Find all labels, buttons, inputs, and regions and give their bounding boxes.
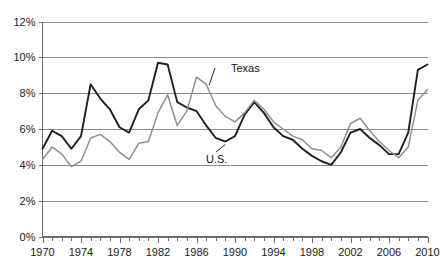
x-axis <box>43 237 429 243</box>
x-axis-label-1998: 1998 <box>300 246 324 258</box>
x-axis-label-2010: 2010 <box>415 246 439 258</box>
chart-container: 0%2%4%6%8%10%12% 19701974197819821986199… <box>0 0 445 271</box>
y-axis-label-12pct: 12% <box>13 16 35 28</box>
series-annotations: TexasU.S. <box>206 62 260 165</box>
gridlines <box>43 23 428 202</box>
unemployment-rate-line-chart: 0%2%4%6%8%10%12% 19701974197819821986199… <box>0 0 445 271</box>
series-line-u-s <box>43 63 428 165</box>
y-axis-label-2pct: 2% <box>20 195 36 207</box>
y-axis-label-6pct: 6% <box>20 123 36 135</box>
x-axis-label-2006: 2006 <box>377 246 401 258</box>
data-series <box>43 63 428 167</box>
x-axis-label-1982: 1982 <box>146 246 170 258</box>
y-axis-label-10pct: 10% <box>13 51 35 63</box>
annotation-leader-line-texas <box>209 68 215 85</box>
x-axis-label-1986: 1986 <box>184 246 208 258</box>
x-tick-labels: 1970197419781982198619901994199820022006… <box>30 246 439 258</box>
y-axis-label-0pct: 0% <box>20 231 36 243</box>
x-axis-label-1994: 1994 <box>261 246 285 258</box>
series-line-texas <box>43 77 428 167</box>
y-tick-labels: 0%2%4%6%8%10%12% <box>13 16 35 243</box>
x-axis-label-1978: 1978 <box>107 246 131 258</box>
annotation-leader-line-u-s <box>216 145 225 152</box>
series-annotation-u-s: U.S. <box>206 153 227 165</box>
x-axis-label-2002: 2002 <box>338 246 362 258</box>
series-annotation-texas: Texas <box>231 62 260 74</box>
x-axis-label-1970: 1970 <box>30 246 54 258</box>
y-axis <box>39 22 43 238</box>
y-axis-label-8pct: 8% <box>20 87 36 99</box>
x-axis-label-1974: 1974 <box>69 246 93 258</box>
y-axis-label-4pct: 4% <box>20 159 36 171</box>
x-axis-label-1990: 1990 <box>223 246 247 258</box>
